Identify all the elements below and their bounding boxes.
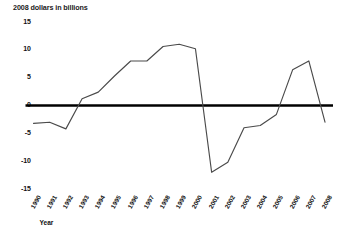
chart-container: 2008 dollars in billions 151050-5-10-15 …	[0, 0, 341, 234]
data-series-line	[34, 44, 326, 172]
x-axis-title: Year	[40, 219, 54, 226]
